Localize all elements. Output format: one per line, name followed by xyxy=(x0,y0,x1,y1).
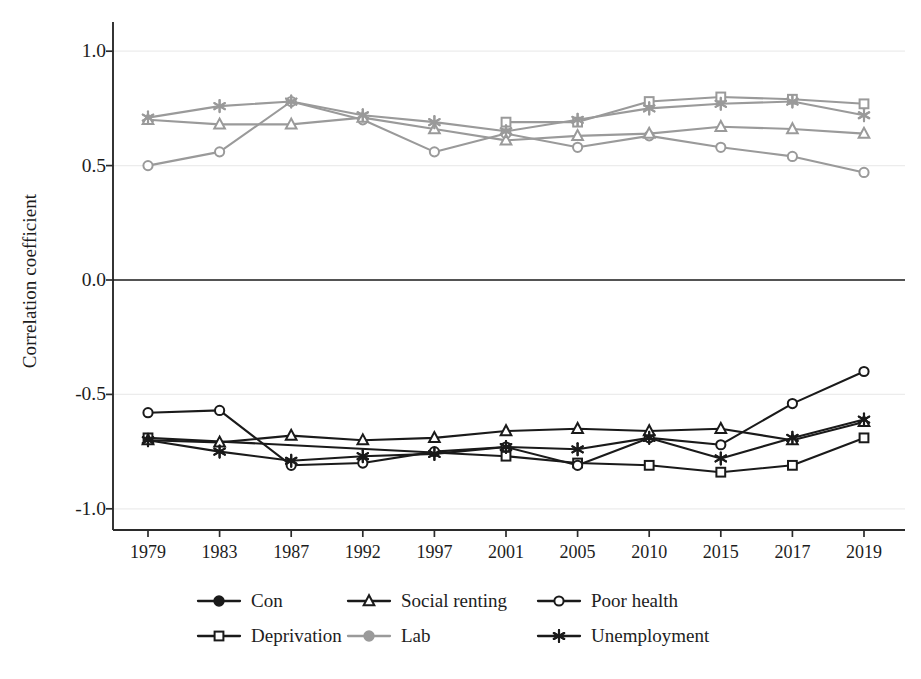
correlation-coefficient-line-chart: Correlation coefficient 1.00.50.0-0.5-1.… xyxy=(0,0,921,679)
triangle-icon xyxy=(346,591,392,611)
plot-area xyxy=(0,0,921,679)
x-tick-2019: 2019 xyxy=(846,542,882,563)
filled-circle-icon xyxy=(196,591,242,611)
x-tick-1987: 1987 xyxy=(273,542,309,563)
x-tick-2010: 2010 xyxy=(631,542,667,563)
legend-label: Lab xyxy=(401,625,431,647)
x-tick-1997: 1997 xyxy=(416,542,452,563)
filled-circle-icon xyxy=(346,626,392,646)
x-tick-2005: 2005 xyxy=(560,542,596,563)
legend-item-lab[interactable]: Lab xyxy=(346,625,536,647)
legend-item-social-renting[interactable]: Social renting xyxy=(346,590,536,612)
x-tick-2001: 2001 xyxy=(488,542,524,563)
series-lab-deprivation xyxy=(502,93,869,127)
star-icon xyxy=(536,626,582,646)
x-axis-tick-labels: 1979198319871992199720012005201020152017… xyxy=(0,542,921,576)
x-tick-2015: 2015 xyxy=(703,542,739,563)
x-tick-1979: 1979 xyxy=(130,542,166,563)
legend-item-deprivation[interactable]: Deprivation xyxy=(196,625,346,647)
legend-label: Unemployment xyxy=(591,625,709,647)
legend-label: Con xyxy=(251,590,283,612)
x-tick-2017: 2017 xyxy=(774,542,810,563)
legend-label: Social renting xyxy=(401,590,507,612)
legend-item-con[interactable]: Con xyxy=(196,590,346,612)
x-tick-1992: 1992 xyxy=(345,542,381,563)
square-icon xyxy=(196,626,242,646)
legend-label: Poor health xyxy=(591,590,678,612)
circle-icon xyxy=(536,591,582,611)
legend-item-unemployment[interactable]: Unemployment xyxy=(536,625,736,647)
legend-label: Deprivation xyxy=(251,625,342,647)
chart-legend: ConSocial rentingPoor healthDeprivationL… xyxy=(196,583,756,653)
series-lab-unemployment xyxy=(143,96,869,138)
legend-item-poor-health[interactable]: Poor health xyxy=(536,590,736,612)
x-tick-1983: 1983 xyxy=(202,542,238,563)
